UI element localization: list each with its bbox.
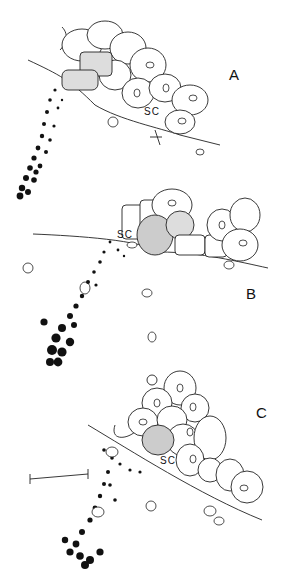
illustration-canvas [0, 0, 283, 583]
panel-a-drawing [17, 21, 220, 199]
scale-bar [30, 469, 88, 484]
histology-figure: A SC B SC C SC [0, 0, 283, 583]
sc-label-b: SC [117, 229, 133, 240]
panel-label-c: C [256, 404, 267, 421]
panel-c-drawing [30, 371, 263, 569]
sc-label-c: SC [160, 455, 176, 466]
panel-label-b: B [246, 285, 256, 302]
sc-label-a: SC [144, 106, 160, 117]
panel-label-a: A [229, 66, 239, 83]
panel-b-drawing [23, 189, 268, 366]
